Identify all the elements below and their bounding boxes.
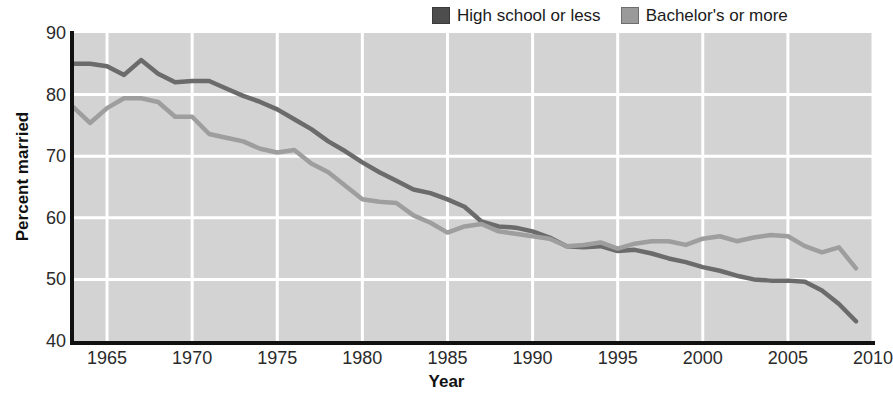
x-tick-label: 2000: [668, 349, 738, 367]
x-axis-title: Year: [0, 373, 893, 390]
y-axis-line: [70, 31, 74, 343]
y-tick-label: 90: [4, 24, 66, 42]
legend-entry-high-school: High school or less: [432, 7, 601, 24]
data-line-high-school: [73, 60, 856, 321]
x-tick-label: 1970: [157, 349, 227, 367]
x-tick-label: 1995: [583, 349, 653, 367]
x-tick-label: 1990: [498, 349, 568, 367]
data-series-group: [73, 60, 856, 321]
x-axis-line: [70, 341, 875, 345]
data-line-bachelors: [73, 98, 856, 268]
x-tick-label: 1985: [412, 349, 482, 367]
x-tick-label: 2005: [753, 349, 823, 367]
x-tick-label: 1965: [72, 349, 142, 367]
legend-swatch-high-school: [432, 7, 450, 24]
y-tick-label: 40: [4, 332, 66, 350]
x-tick-label: 1975: [242, 349, 312, 367]
plot-area: [73, 33, 873, 341]
chart-canvas: [73, 33, 873, 341]
legend-swatch-bachelors: [621, 7, 639, 24]
chart-legend: High school or less Bachelor's or more: [432, 4, 788, 26]
legend-label-high-school: High school or less: [457, 7, 601, 24]
x-tick-label: 1980: [327, 349, 397, 367]
x-tick-label: 2010: [838, 349, 893, 367]
legend-label-bachelors: Bachelor's or more: [646, 7, 788, 24]
y-axis-ticks: 405060708090: [0, 0, 66, 399]
y-axis-title: Percent married: [14, 77, 31, 277]
legend-entry-bachelors: Bachelor's or more: [621, 7, 788, 24]
chart-figure: High school or less Bachelor's or more 4…: [0, 0, 893, 399]
